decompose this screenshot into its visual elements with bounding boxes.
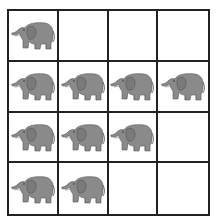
elephant-icon: [161, 70, 205, 102]
grid-cell-with-elephant: [59, 62, 109, 113]
grid-cell-with-elephant: [59, 113, 109, 164]
grid-cell-with-elephant: [9, 163, 59, 214]
grid-cell-empty: [158, 11, 208, 62]
elephant-icon: [110, 121, 154, 153]
elephant-icon: [61, 70, 105, 102]
elephant-icon: [61, 173, 105, 205]
grid-cell-empty: [109, 163, 159, 214]
grid-cell-with-elephant: [9, 11, 59, 62]
elephant-icon: [11, 173, 55, 205]
elephant-icon: [61, 121, 105, 153]
elephant-icon: [11, 121, 55, 153]
grid-cell-with-elephant: [9, 62, 59, 113]
elephant-icon: [110, 70, 154, 102]
grid-cell-empty: [109, 11, 159, 62]
grid-cell-empty: [158, 163, 208, 214]
grid-cell-with-elephant: [59, 163, 109, 214]
elephant-icon: [11, 70, 55, 102]
grid-cell-empty: [158, 113, 208, 164]
grid-cell-empty: [59, 11, 109, 62]
grid-cell-with-elephant: [9, 113, 59, 164]
grid-cell-with-elephant: [109, 113, 159, 164]
elephant-icon: [11, 19, 55, 51]
counting-grid: [7, 9, 210, 216]
grid-cell-with-elephant: [158, 62, 208, 113]
grid-cell-with-elephant: [109, 62, 159, 113]
